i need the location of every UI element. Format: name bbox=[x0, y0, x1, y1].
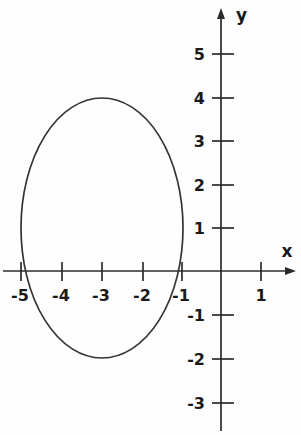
ellipse-curve bbox=[21, 98, 183, 358]
x-tick-label--1: -1 bbox=[172, 286, 190, 305]
x-tick-label-1: 1 bbox=[255, 286, 266, 305]
y-tick-label--3: -3 bbox=[187, 394, 205, 413]
x-tick-label--2: -2 bbox=[133, 286, 151, 305]
y-tick-label-3: 3 bbox=[194, 132, 205, 151]
coordinate-plane: x y -5 -4 -3 -2 -1 1 5 4 3 2 1 -1 -2 -3 bbox=[0, 0, 301, 435]
y-axis-arrowhead bbox=[217, 8, 225, 19]
y-tick-label-4: 4 bbox=[194, 89, 205, 108]
x-tick-label--3: -3 bbox=[92, 286, 110, 305]
y-tick-label-1: 1 bbox=[194, 219, 205, 238]
y-tick-label--1: -1 bbox=[187, 306, 205, 325]
y-tick-label-2: 2 bbox=[194, 176, 205, 195]
x-tick-label--4: -4 bbox=[52, 286, 70, 305]
y-axis-label: y bbox=[236, 5, 247, 25]
ellipse-graph-figure: x y -5 -4 -3 -2 -1 1 5 4 3 2 1 -1 -2 -3 bbox=[0, 0, 301, 435]
x-tick-label--5: -5 bbox=[11, 286, 29, 305]
y-tick-label-5: 5 bbox=[194, 45, 205, 64]
y-tick-label--2: -2 bbox=[187, 350, 205, 369]
y-axis-ticks bbox=[212, 54, 234, 403]
x-axis-label: x bbox=[282, 241, 293, 261]
x-axis-arrowhead bbox=[285, 267, 296, 275]
